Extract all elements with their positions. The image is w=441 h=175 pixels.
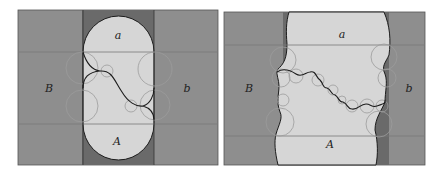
left-panel: a A B b: [18, 10, 218, 165]
figure: a A B b a A B: [0, 0, 441, 175]
label-a: a: [339, 28, 346, 41]
right-panel: a A B b: [224, 12, 425, 165]
label-A: A: [325, 138, 334, 151]
label-b: b: [405, 82, 412, 95]
label-B: B: [244, 82, 253, 95]
label-A: A: [112, 135, 121, 148]
label-b: b: [183, 82, 190, 95]
label-a: a: [115, 29, 122, 42]
label-B: B: [44, 82, 53, 95]
